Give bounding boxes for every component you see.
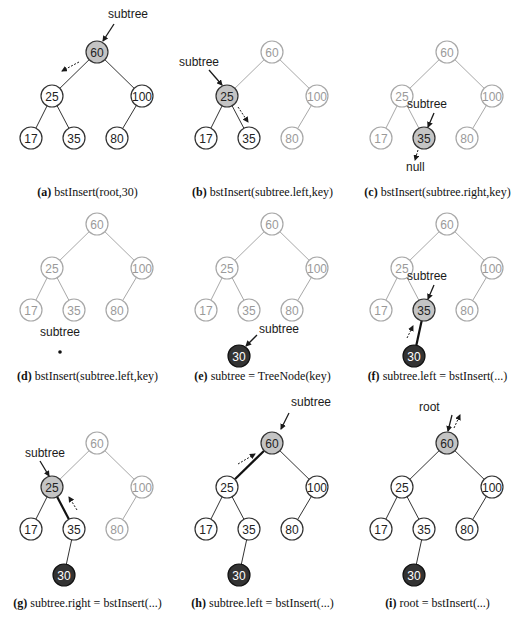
diagram-canvas: 6025100173580subtree6025100173580subtree… [0,0,524,625]
caption-c: (c) bstInsert(subtree.right,key) [350,185,524,200]
tree-node-25: 25 [216,476,238,498]
node-key: 17 [199,132,213,146]
tree-node-35: 35 [413,127,435,149]
tree-edge [105,232,134,261]
node-key: 100 [307,262,327,276]
caption-d: (d) bstInsert(subtree.left,key) [0,369,175,384]
node-key: 80 [285,304,299,318]
recursion-arrow-icon [407,326,413,338]
pointer-arrow-icon [428,113,434,127]
pointer-arrow-icon [209,70,222,85]
node-key: 25 [220,90,234,104]
caption-text: root = bstInsert(...) [396,596,489,610]
tree-edge [235,232,264,261]
pointer-arrow-icon [103,24,114,41]
node-key: 35 [242,132,256,146]
tree-edge [36,497,47,519]
node-key: 35 [417,304,431,318]
node-key: 80 [460,132,474,146]
tree-node-35: 35 [413,518,435,540]
panel-e: 602510017358030subtree [195,213,328,367]
tree-node-17: 17 [370,127,392,149]
tree-edge [473,496,487,519]
panel-g: 602510017358030subtree [20,432,153,586]
tree-node-35: 35 [63,127,85,149]
tree-node-25: 25 [216,257,238,279]
tree-node-35: 35 [63,299,85,321]
node-key: 60 [90,437,104,451]
tree-edge [235,60,264,89]
subtree-label: subtree [179,55,219,69]
tree-node-60: 60 [436,41,458,63]
tree-node-60: 60 [86,432,108,454]
null-pointer-dot [58,350,62,354]
recursion-arrow-icon [69,497,77,510]
tree-node-100: 100 [306,85,328,107]
node-key: 100 [132,262,152,276]
caption-letter: (i) [385,596,396,610]
node-key: 30 [407,350,421,364]
node-key: 60 [440,46,454,60]
tree-node-25: 25 [41,257,63,279]
tree-node-35: 35 [413,299,435,321]
pointer-arrow-icon [246,335,257,346]
tree-node-80: 80 [281,518,303,540]
node-key: 17 [374,304,388,318]
caption-letter: (g) [13,596,27,610]
caption-letter: (b) [192,185,207,199]
tree-edge [36,278,47,300]
node-key: 80 [285,523,299,537]
tree-edge [280,60,309,89]
tree-node-80: 80 [456,518,478,540]
tree-edge [410,232,439,261]
panel-a: 6025100173580subtree [20,7,153,149]
caption-g: (g) subtree.right = bstInsert(...) [0,596,175,611]
tree-edge [232,278,244,301]
caption-letter: (f) [368,369,380,383]
node-key: 25 [45,262,59,276]
tree-node-100: 100 [481,476,503,498]
node-key: 35 [417,523,431,537]
node-key: 35 [67,304,81,318]
recursion-arrow-icon [415,150,418,160]
node-key: 60 [90,218,104,232]
pointer-arrow-icon [281,413,289,429]
caption-b: (b) bstInsert(subtree.left,key) [175,185,350,200]
tree-node-17: 17 [195,127,217,149]
tree-node-60: 60 [261,432,283,454]
caption-text: subtree = TreeNode(key) [208,369,331,383]
subtree-label: subtree [407,97,447,111]
tree-node-60: 60 [436,213,458,235]
tree-node-100: 100 [481,257,503,279]
tree-node-80: 80 [106,299,128,321]
tree-node-60: 60 [261,213,283,235]
subtree-label: subtree [108,7,148,21]
tree-node-35: 35 [238,518,260,540]
tree-edge [473,277,487,300]
pointer-arrow-icon [428,285,434,299]
node-key: 60 [265,46,279,60]
node-key: 80 [285,132,299,146]
tree-node-100: 100 [306,257,328,279]
tree-edge [386,278,397,300]
tree-edge [455,451,484,480]
caption-letter: (a) [37,185,51,199]
caption-text: bstInsert(subtree.left,key) [207,185,333,199]
tree-node-35: 35 [238,299,260,321]
tree-edge [57,278,69,301]
node-key: 35 [67,132,81,146]
tree-node-30: 30 [228,564,250,586]
node-key: 25 [220,481,234,495]
node-key: 60 [440,218,454,232]
node-key: 25 [395,481,409,495]
tree-node-100: 100 [306,476,328,498]
tree-edge [57,497,69,520]
tree-node-100: 100 [131,85,153,107]
tree-node-30: 30 [53,564,75,586]
caption-i: (i) root = bstInsert(...) [350,596,524,611]
node-key: 17 [374,132,388,146]
tree-edge [123,496,137,519]
node-key: 35 [417,132,431,146]
tree-node-17: 17 [195,518,217,540]
subtree-label: subtree [25,446,65,460]
